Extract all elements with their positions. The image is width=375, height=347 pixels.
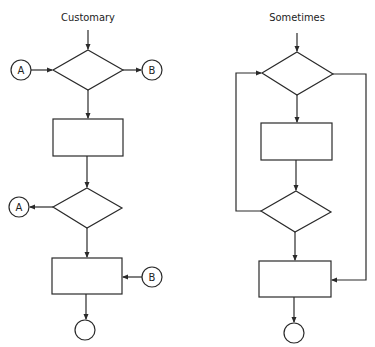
decision-diamond-1	[53, 50, 123, 90]
decision-diamond-2	[261, 191, 331, 232]
connector-a-in-label: A	[18, 65, 25, 76]
loop-back-arrow	[236, 73, 261, 211]
process-box-1	[53, 119, 123, 156]
sometimes-flowchart: Sometimes	[236, 11, 366, 343]
process-box-2	[52, 258, 122, 294]
customary-flowchart: Customary A B A B	[9, 11, 162, 340]
terminal-circle	[75, 320, 95, 340]
decision-diamond-1	[262, 52, 333, 95]
terminal-circle	[284, 323, 304, 343]
customary-title: Customary	[61, 11, 115, 24]
bypass-arrow	[332, 74, 366, 280]
process-box-2	[259, 261, 331, 297]
flowchart-canvas: Customary A B A B So	[0, 0, 375, 347]
connector-b-in-label: B	[149, 272, 156, 283]
connector-b-out-label: B	[149, 65, 156, 76]
process-box-1	[261, 123, 332, 160]
connector-a-out-label: A	[16, 202, 23, 213]
decision-diamond-2	[53, 188, 122, 228]
sometimes-title: Sometimes	[269, 11, 325, 24]
